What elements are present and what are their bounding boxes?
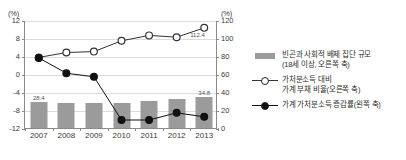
filled-circle-marker [173,109,180,116]
chart-container: (%) (%) 12840-4-8-12 120100806040200 28.… [0,0,406,160]
x-tick [108,128,109,131]
legend-label-line2: (18세 이상, 오른쪽 축) [282,60,371,70]
bar-value-label: 34.8 [198,90,210,96]
right-tick-label: 100 [221,34,234,43]
open-circle-marker [63,49,70,56]
open-circle-marker [201,24,208,31]
filled-circle-marker [146,117,153,124]
open-circle-icon [261,77,269,85]
right-tick-label: 0 [221,124,225,133]
legend-label-line2: 가계 부채 비율(오른쪽 축) [282,85,360,95]
bar-value-label: 28.4 [33,95,45,101]
x-tick [190,128,191,131]
left-tick-label: 0 [16,70,20,79]
legend-item: 가계 가처분소득 증감률(왼쪽 축) [252,100,404,111]
filled-circle-marker [201,113,208,120]
x-axis-label: 2010 [113,131,131,140]
x-axis-label: 2012 [168,131,186,140]
legend-label: 가처분소득 대비가계 부채 비율(오른쪽 축) [282,75,360,95]
x-axis-label: 2009 [85,131,103,140]
legend-filled-circle-icon [252,100,278,111]
x-tick [53,128,54,131]
right-tick-label: 120 [221,16,234,25]
line-series [25,21,218,129]
x-axis-label: 2007 [30,131,48,140]
left-tick-label: 12 [12,16,20,25]
bar-swatch-icon [255,53,275,59]
right-tick-label: 20 [221,106,229,115]
x-tick [218,128,219,131]
open-circle-marker [173,34,180,41]
open-circle-marker [118,37,125,44]
legend-open-circle-icon [252,75,278,86]
open-circle-marker [91,48,98,55]
right-tick-label: 40 [221,88,229,97]
right-tick-label: 80 [221,52,229,61]
x-tick [80,128,81,131]
x-tick [135,128,136,131]
left-tick-label: -12 [9,124,20,133]
point-value-label: 112.4 [190,32,205,38]
x-axis-label: 2008 [57,131,75,140]
chart-legend: 빈곤과 사회적 배제 집단 규모(18세 이상, 오른쪽 축)가처분소득 대비가… [252,50,404,116]
left-tick-label: 4 [16,52,20,61]
filled-circle-icon [261,102,269,110]
left-tick-label: -4 [13,88,20,97]
left-tick-label: -8 [13,106,20,115]
filled-circle-marker [91,73,98,80]
filled-circle-marker [63,70,70,77]
right-tick-label: 60 [221,70,229,79]
x-tick [25,128,26,131]
legend-label: 가계 가처분소득 증감률(왼쪽 축) [282,100,381,110]
open-circle-marker [146,32,153,39]
legend-bar-swatch-icon [252,50,278,61]
left-tick-label: 8 [16,34,20,43]
filled-circle-marker [35,55,42,62]
legend-item: 가처분소득 대비가계 부채 비율(오른쪽 축) [252,75,404,95]
x-axis-label: 2011 [140,131,157,140]
x-tick [163,128,164,131]
filled-circle-marker [118,117,125,124]
legend-label-line1: 가계 가처분소득 증감률(왼쪽 축) [282,100,381,110]
legend-item: 빈곤과 사회적 배제 집단 규모(18세 이상, 오른쪽 축) [252,50,404,70]
legend-label-line1: 가처분소득 대비 [282,75,360,85]
x-axis-label: 2013 [195,131,213,140]
plot-area: 12840-4-8-12 120100806040200 28.434.8112… [24,21,217,129]
legend-label-line1: 빈곤과 사회적 배제 집단 규모 [282,50,371,60]
legend-label: 빈곤과 사회적 배제 집단 규모(18세 이상, 오른쪽 축) [282,50,371,70]
